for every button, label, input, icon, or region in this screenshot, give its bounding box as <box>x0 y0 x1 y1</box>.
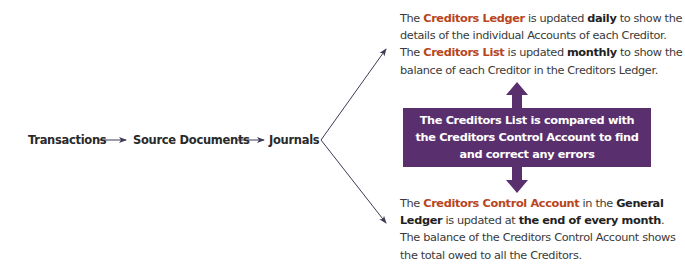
creditors-ledger-term: Creditors Ledger <box>423 12 525 25</box>
flow-step-transactions: Transactions <box>28 133 106 147</box>
down-arrow-icon <box>506 166 528 193</box>
flow-step-journals: Journals <box>269 133 319 147</box>
creditors-ledger-description: The Creditors Ledger is updated daily to… <box>400 10 685 79</box>
comparison-box: The Creditors List is compared with the … <box>403 108 651 167</box>
arrow-journals-to-control-account <box>321 140 386 223</box>
arrow-journals-to-ledger <box>321 49 386 140</box>
creditors-control-account-term: Creditors Control Account <box>423 197 579 210</box>
control-account-description: The Creditors Control Account in the Gen… <box>400 195 685 264</box>
creditors-list-term: Creditors List <box>423 46 504 59</box>
flow-step-source-documents: Source Documents <box>133 133 250 147</box>
up-arrow-icon <box>506 82 528 109</box>
